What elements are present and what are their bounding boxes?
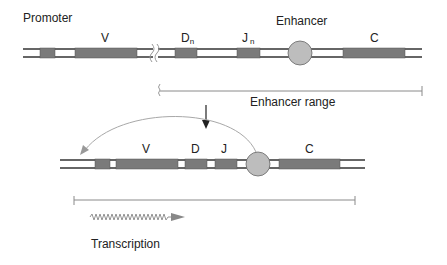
- j-label-rearranged: J: [221, 142, 227, 156]
- d-segment-rearranged: [185, 159, 207, 169]
- down-arrow-icon: [202, 105, 210, 129]
- enhancer-circle-rearranged: [246, 152, 270, 176]
- dn-label: Dn: [181, 31, 194, 46]
- c-segment: [343, 48, 405, 58]
- jn-label: Jn: [242, 31, 254, 46]
- leader-exon-rearranged: [95, 159, 110, 169]
- dn-segment: [175, 48, 197, 58]
- j-segment-rearranged: [215, 159, 237, 169]
- leader-exon: [40, 48, 55, 58]
- vdj-recombination-diagram: Promoter Enhancer V Dn Jn C Enhancer ran…: [0, 0, 447, 265]
- d-label-rearranged: D: [191, 142, 200, 156]
- v-label: V: [101, 31, 109, 45]
- curved-arrow-icon: [80, 116, 256, 155]
- v-label-rearranged: V: [142, 142, 150, 156]
- break-mark-icon: [150, 44, 154, 62]
- c-segment-rearranged: [279, 159, 340, 169]
- v-segment-rearranged: [116, 159, 178, 169]
- transcription-label: Transcription: [91, 237, 160, 251]
- enhancer-label: Enhancer: [276, 14, 327, 28]
- promoter-label: Promoter: [23, 11, 72, 25]
- enhancer-range-label: Enhancer range: [250, 95, 336, 109]
- enhancer-circle: [288, 41, 312, 65]
- c-label: C: [370, 31, 379, 45]
- jn-segment: [237, 48, 260, 58]
- v-segment: [75, 48, 137, 58]
- c-label-rearranged: C: [305, 142, 314, 156]
- transcript-wave-arrow-icon: [90, 213, 185, 221]
- transcription-range-bracket: [74, 196, 355, 205]
